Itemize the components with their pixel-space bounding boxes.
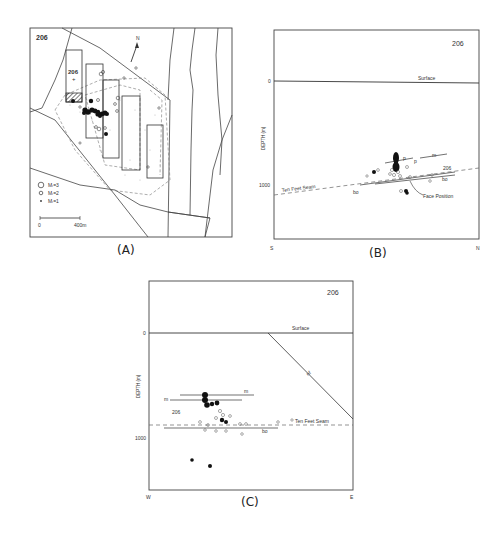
x-left-label: S xyxy=(270,245,274,251)
panel-206-label: 206 xyxy=(68,69,79,75)
caption-a: (A) xyxy=(117,243,135,257)
legend-ml2-label: Mₗ=2 xyxy=(48,190,59,196)
surface-label: Surface xyxy=(292,325,309,331)
panel-b-number: 206 xyxy=(452,40,464,47)
caption-b: (B) xyxy=(369,246,387,260)
fault-lines xyxy=(30,28,232,237)
y-tick-0: 0 xyxy=(143,330,146,336)
north-arrow-head-icon xyxy=(135,42,139,48)
scale-start: 0 xyxy=(38,222,41,228)
m-label-2: m xyxy=(164,396,168,402)
nf-label: nf xyxy=(305,369,313,377)
y-tick-1000: 1000 xyxy=(259,182,270,188)
bo-label: bo xyxy=(262,428,268,434)
horizon-lines xyxy=(360,154,455,185)
seam-206-label: 206 xyxy=(443,165,452,171)
p-label-2: p xyxy=(414,158,417,164)
panel-b-ns-section: 206 Surface 0 1000 DEPTH (m) Ten Feet Se… xyxy=(250,0,503,270)
panel-a-plan-map: N 206 206 + Mₗ=3 Mₗ=2 Mₗ=1 0 400m (A) xyxy=(0,0,250,270)
x-right-label: N xyxy=(476,245,480,251)
legend-ml3-icon xyxy=(38,182,44,188)
y-tick-0: 0 xyxy=(268,78,271,84)
ten-feet-seam-line xyxy=(274,168,479,195)
bo-label-2: bo xyxy=(353,189,359,195)
face-position-label: Face Position xyxy=(423,193,454,199)
scale-bar: 0 400m xyxy=(38,216,87,228)
seam-label: Ten Feet Seam xyxy=(295,418,329,424)
seam-206-label: 206 xyxy=(172,409,181,415)
face-position-leader xyxy=(410,181,423,195)
surface-label: Surface xyxy=(418,75,435,81)
panel-c-we-section: 206 Surface 0 1000 DEPTH (m) nf Ten Feet… xyxy=(130,270,380,533)
north-label: N xyxy=(136,35,140,41)
x-right-label: E xyxy=(350,494,354,500)
m-label-1: m xyxy=(244,388,248,394)
panel-a-map-svg: N 206 206 + Mₗ=3 Mₗ=2 Mₗ=1 0 400m xyxy=(0,0,250,270)
nf-fault-line xyxy=(268,333,353,419)
p-label-1: p xyxy=(403,155,406,161)
event-markers-b xyxy=(366,152,434,195)
scale-end: 400m xyxy=(74,222,87,228)
longwall-panels xyxy=(66,50,163,178)
legend-ml1-label: Mₗ=1 xyxy=(48,198,59,204)
legend-ml2-icon xyxy=(39,191,43,195)
y-axis-label: DEPTH (m) xyxy=(136,374,141,398)
m-label: m xyxy=(432,152,436,158)
panel-c-svg: 206 Surface 0 1000 DEPTH (m) nf Ten Feet… xyxy=(130,270,380,533)
y-axis-label: DEPTH (m) xyxy=(261,126,266,150)
panel-a-number: 206 xyxy=(36,34,48,41)
bo-label-1: bo xyxy=(442,176,448,182)
panel-b-svg: 206 Surface 0 1000 DEPTH (m) Ten Feet Se… xyxy=(250,0,503,270)
legend-ml1-icon xyxy=(40,200,42,202)
panel-206-cross-icon: + xyxy=(72,76,76,82)
y-tick-1000: 1000 xyxy=(135,435,146,441)
x-left-label: W xyxy=(146,494,151,500)
surface-line xyxy=(274,81,479,83)
panel-c-number: 206 xyxy=(327,289,339,296)
event-markers-c xyxy=(190,392,293,468)
horizon-lines xyxy=(164,395,278,428)
legend-ml3-label: Mₗ=3 xyxy=(48,182,59,188)
caption-c: (C) xyxy=(241,495,259,509)
magnitude-legend: Mₗ=3 Mₗ=2 Mₗ=1 xyxy=(38,182,59,204)
